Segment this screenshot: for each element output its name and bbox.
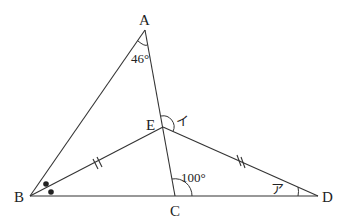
vertex-a-label: A [139, 12, 150, 28]
segment-ab [30, 30, 145, 196]
segment-ed [163, 127, 318, 196]
angle-dot-2 [48, 189, 54, 195]
angle-e-label: イ [176, 113, 189, 128]
angle-arc-d [298, 187, 299, 196]
angle-d-label: ア [271, 181, 284, 196]
angle-arc-a [138, 41, 148, 46]
angle-dot-1 [43, 181, 49, 187]
vertex-e-label: E [146, 117, 155, 133]
angle-a-label: 46° [131, 51, 149, 66]
segment-ac [145, 30, 175, 196]
segment-be [30, 127, 163, 196]
geometry-diagram: A B C D E 46° 100° イ ア [0, 0, 348, 223]
vertex-c-label: C [170, 203, 180, 219]
vertex-b-label: B [14, 189, 24, 205]
vertex-d-label: D [322, 189, 333, 205]
angle-c-label: 100° [181, 170, 206, 185]
